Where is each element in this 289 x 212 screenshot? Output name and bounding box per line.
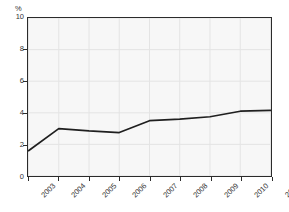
- chart-figure: % 0246810 200320042005200620072008200920…: [0, 0, 289, 212]
- x-tick-mark: [89, 177, 90, 181]
- data-series-line: [28, 18, 271, 176]
- y-tick-label: 2: [2, 141, 24, 149]
- x-tick-mark: [241, 177, 242, 181]
- x-tick-mark: [272, 177, 273, 181]
- y-axis-ticks: 0246810: [0, 17, 24, 177]
- x-tick-mark: [211, 177, 212, 181]
- y-tick-label: 4: [2, 109, 24, 117]
- x-tick-mark: [150, 177, 151, 181]
- x-tick-label: 2009: [222, 182, 239, 199]
- x-tick-label: 2008: [192, 182, 209, 199]
- x-tick-label: 2006: [131, 182, 148, 199]
- x-tick-label: 2004: [70, 182, 87, 199]
- y-tick-label: 0: [2, 173, 24, 181]
- x-tick-label: 2011: [283, 182, 289, 199]
- y-tick-label: 10: [2, 13, 24, 21]
- x-tick-mark: [180, 177, 181, 181]
- plot-area: [27, 17, 272, 177]
- chart-title: [0, 0, 289, 1]
- x-tick-label: 2010: [253, 182, 270, 199]
- x-tick-mark: [58, 177, 59, 181]
- x-tick-mark: [28, 177, 29, 181]
- y-tick-label: 6: [2, 77, 24, 85]
- x-axis-tick-labels: 200320042005200620072008200920102011: [27, 182, 272, 212]
- x-tick-mark: [119, 177, 120, 181]
- x-tick-label: 2005: [100, 182, 117, 199]
- x-tick-label: 2007: [161, 182, 178, 199]
- y-tick-label: 8: [2, 45, 24, 53]
- x-tick-label: 2003: [39, 182, 56, 199]
